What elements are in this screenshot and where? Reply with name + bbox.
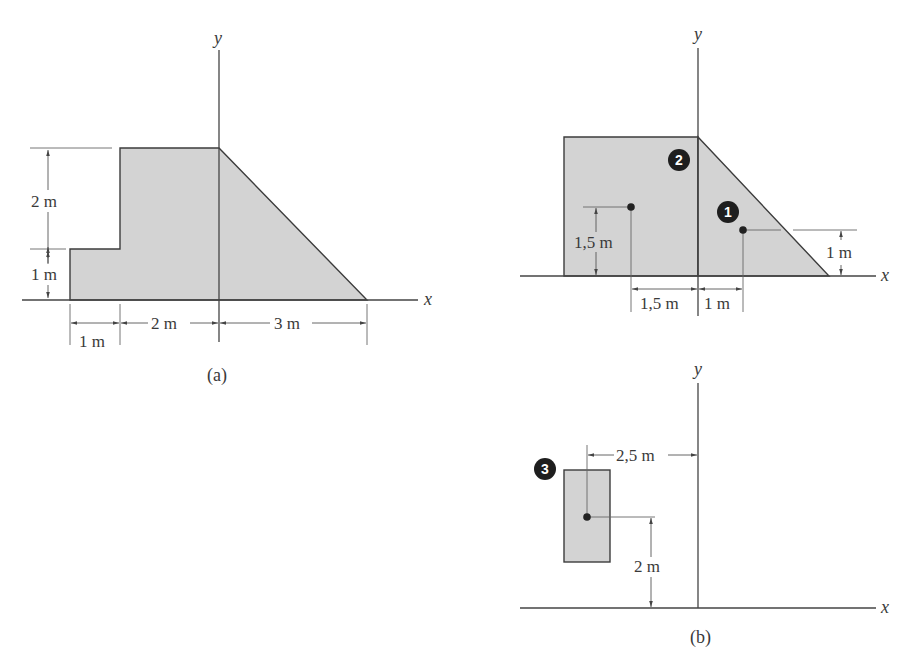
centroid-1-dot <box>739 226 747 234</box>
caption-a: (a) <box>207 365 227 386</box>
svg-text:1: 1 <box>724 204 732 220</box>
figure-b-upper: y x 1,5 m 1 m 1,5 m 1 m 2 1 <box>520 24 889 316</box>
dim-height-upper: 2 m <box>31 192 57 211</box>
dim-centroid-1-x: 1 m <box>704 294 730 313</box>
svg-text:3: 3 <box>541 461 549 477</box>
part-1-badge: 1 <box>717 201 739 223</box>
dim-width-middle: 2 m <box>151 314 177 333</box>
dim-centroid-2-y: 1,5 m <box>574 233 613 252</box>
svg-text:2: 2 <box>675 152 683 168</box>
part-2-badge: 2 <box>668 149 690 171</box>
figure-a: y x 2 m 1 m 1 m 2 m 3 m (a) <box>22 28 432 386</box>
y-axis-label: y <box>212 28 222 48</box>
dim-height-lower: 1 m <box>31 265 57 284</box>
centroid-2-dot <box>627 203 635 211</box>
centroid-3-dot <box>583 513 591 521</box>
figure-b-lower: y x 2,5 m 2 m 3 (b) <box>520 359 889 648</box>
dim-centroid-3-x: 2,5 m <box>616 446 655 465</box>
x-axis-label: x <box>423 289 432 309</box>
dim-centroid-1-y: 1 m <box>826 243 852 262</box>
triangle-part-1 <box>698 137 829 276</box>
y-axis-label: y <box>692 24 702 44</box>
caption-b: (b) <box>690 627 711 648</box>
dim-centroid-2-x: 1,5 m <box>640 294 679 313</box>
part-3-badge: 3 <box>534 458 556 480</box>
x-axis-label: x <box>880 265 889 285</box>
y-axis-label: y <box>692 359 702 379</box>
x-axis-label: x <box>880 597 889 617</box>
dim-width-left: 1 m <box>79 332 105 351</box>
dim-width-right: 3 m <box>274 314 300 333</box>
composite-area-diagram: y x 2 m 1 m 1 m 2 m 3 m (a) y x <box>0 0 914 669</box>
dim-centroid-3-y: 2 m <box>634 557 660 576</box>
